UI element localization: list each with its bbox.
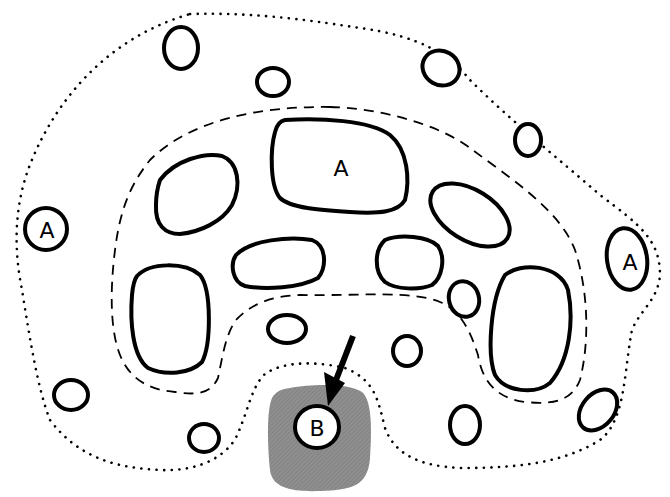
cell xyxy=(515,124,541,156)
cell xyxy=(164,27,198,69)
cell xyxy=(491,267,571,390)
label-a-center: A xyxy=(333,156,348,181)
cell xyxy=(445,278,483,321)
cell xyxy=(268,315,306,343)
cell xyxy=(233,239,324,288)
cell xyxy=(393,336,421,366)
cell xyxy=(257,68,289,96)
cell xyxy=(189,424,219,452)
label-b: B xyxy=(309,416,324,441)
cell xyxy=(450,406,480,444)
diagram-canvas: A A A B xyxy=(0,0,670,497)
cell xyxy=(416,44,466,92)
label-a-left: A xyxy=(39,218,54,243)
cell xyxy=(571,382,625,438)
cell xyxy=(156,155,238,234)
cell xyxy=(377,237,443,289)
cell xyxy=(54,380,88,410)
label-a-right: A xyxy=(622,250,637,275)
cell xyxy=(131,265,209,372)
